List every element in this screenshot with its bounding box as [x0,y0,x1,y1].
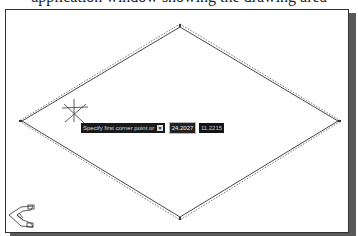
x-coordinate-input[interactable]: 24.2027 [170,123,195,133]
vertex-grip-right[interactable] [338,120,341,122]
dynamic-input-prompt: Specify first corner point or ▼ [81,123,165,133]
y-coordinate-input[interactable]: 11.2215 [199,123,224,133]
diamond-dashed-outline [19,24,341,220]
diamond-shape[interactable] [22,27,338,217]
ucs-icon [9,205,34,227]
vertex-grip-bottom[interactable] [179,217,181,220]
crosshair-cursor-icon [62,99,88,123]
down-arrow-icon[interactable]: ▼ [157,125,163,131]
prompt-text: Specify first corner point or [83,125,154,131]
vertex-grip-top[interactable] [179,24,181,27]
drawing-canvas[interactable] [5,9,349,233]
vertex-grip-left[interactable] [19,120,22,122]
